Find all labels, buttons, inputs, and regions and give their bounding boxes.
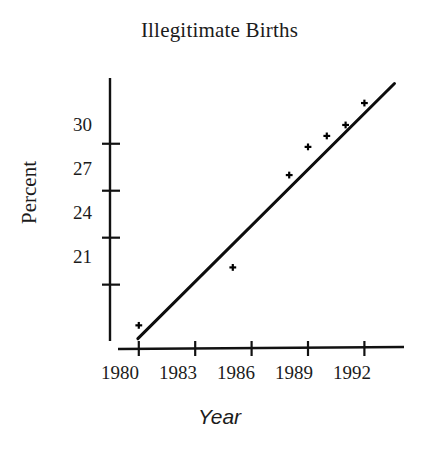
data-point-1988 — [286, 172, 293, 179]
data-point-1992 — [361, 100, 368, 107]
data-point-markers — [135, 100, 367, 329]
data-point-1991 — [342, 122, 349, 129]
data-point-1985 — [229, 264, 236, 271]
chart-figure: Illegitimate Births Percent Year 30 27 2… — [0, 0, 439, 451]
plot-area — [0, 0, 439, 451]
data-point-1989 — [305, 143, 312, 150]
x-axis-spine — [118, 347, 404, 349]
data-point-1990 — [323, 133, 330, 140]
regression-trendline — [138, 83, 395, 338]
data-point-1980 — [135, 322, 142, 329]
